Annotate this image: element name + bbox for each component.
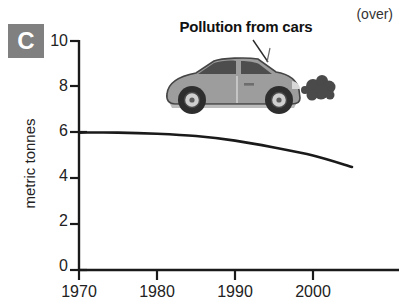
data-series-line [79, 133, 352, 167]
chart-figure: C (over) Pollution from cars metric tonn… [0, 0, 399, 308]
exhaust-smoke-icon [301, 75, 336, 101]
car-illustration-icon [167, 48, 300, 114]
x-axis-ticks [79, 270, 313, 280]
